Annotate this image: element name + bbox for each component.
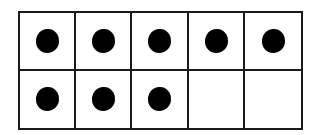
frame-cell-r1-c3: [132, 13, 188, 71]
frame-cell-r1-c5: [245, 13, 301, 71]
counter-dot-icon: [92, 87, 115, 111]
frame-cell-r1-c4: [189, 13, 245, 71]
frame-cell-r2-c1: [20, 71, 76, 129]
frame-cell-r2-c4: [189, 71, 245, 129]
counter-dot-icon: [205, 29, 228, 53]
frame-cell-r2-c2: [76, 71, 132, 129]
counter-dot-icon: [262, 29, 285, 53]
frame-cell-r2-c5: [245, 71, 301, 129]
counter-dot-icon: [92, 29, 115, 53]
frame-cell-r1-c1: [20, 13, 76, 71]
counter-dot-icon: [148, 29, 171, 53]
counter-dot-icon: [36, 87, 59, 111]
ten-frame: [18, 11, 303, 130]
frame-cell-r2-c3: [132, 71, 188, 129]
counter-dot-icon: [36, 29, 59, 53]
counter-dot-icon: [148, 87, 171, 111]
frame-cell-r1-c2: [76, 13, 132, 71]
